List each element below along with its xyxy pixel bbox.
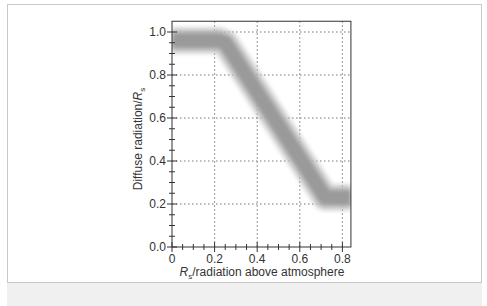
x-axis-label: Rs/radiation above atmosphere (180, 265, 345, 281)
y-tick-label: 0.0 (149, 240, 166, 254)
y-tick-label: 1.0 (149, 25, 166, 39)
y-tick-label: 0.2 (149, 197, 166, 211)
x-tick-label: 0.6 (291, 252, 308, 266)
x-tick-label: 0.4 (249, 252, 266, 266)
data-band (172, 41, 351, 198)
y-tick-label: 0.6 (149, 111, 166, 125)
x-tick-label: 0.8 (334, 252, 351, 266)
x-tick-label: 0.2 (206, 252, 223, 266)
x-axis-ticks: 00.20.40.60.8 (169, 242, 351, 266)
y-axis-ticks: 0.00.20.40.60.81.0 (149, 25, 177, 254)
axes (172, 21, 351, 247)
plot-frame (172, 21, 351, 247)
y-tick-label: 0.4 (149, 154, 166, 168)
y-tick-label: 0.8 (149, 68, 166, 82)
grid-lines (172, 21, 351, 247)
x-tick-label: 0 (169, 252, 176, 266)
y-axis-label: Diffuse radiation/Rs (131, 88, 147, 191)
